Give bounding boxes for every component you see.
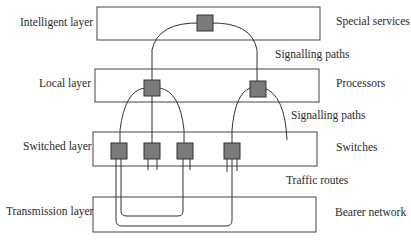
traffic-route-inner (121, 172, 183, 216)
signalling-path-p1-s3 (160, 88, 184, 143)
signalling-path-top-left (152, 23, 200, 80)
signalling-paths-label-lower: Signalling paths (291, 109, 365, 121)
bearer-network-label: Bearer network (335, 206, 406, 218)
processor-node-1 (144, 80, 160, 96)
signalling-path-p2-s4 (232, 88, 250, 143)
transmission-layer-label: Transmission layer (6, 205, 93, 217)
processor-node-2 (250, 81, 266, 97)
local-layer-box (95, 69, 319, 102)
switch-node-4 (224, 143, 240, 159)
signalling-paths-label-upper: Signalling paths (275, 48, 349, 60)
switch-node-2 (144, 143, 160, 159)
switch-node-3 (177, 143, 193, 159)
traffic-routes-label: Traffic routes (286, 174, 348, 186)
switched-layer-label: Switched layer (23, 140, 92, 152)
processors-label: Processors (336, 77, 385, 89)
signalling-path-top-right (210, 23, 257, 81)
local-layer-label: Local layer (39, 77, 91, 89)
transmission-layer-box (93, 197, 316, 232)
special-service-node (197, 15, 213, 31)
special-services-label: Special services (336, 15, 410, 27)
switch-node-1 (111, 143, 127, 159)
intelligent-layer-label: Intelligent layer (20, 16, 93, 28)
signalling-path-p1-s1 (120, 88, 145, 143)
switches-label: Switches (336, 141, 378, 153)
traffic-route-outer (116, 172, 232, 226)
